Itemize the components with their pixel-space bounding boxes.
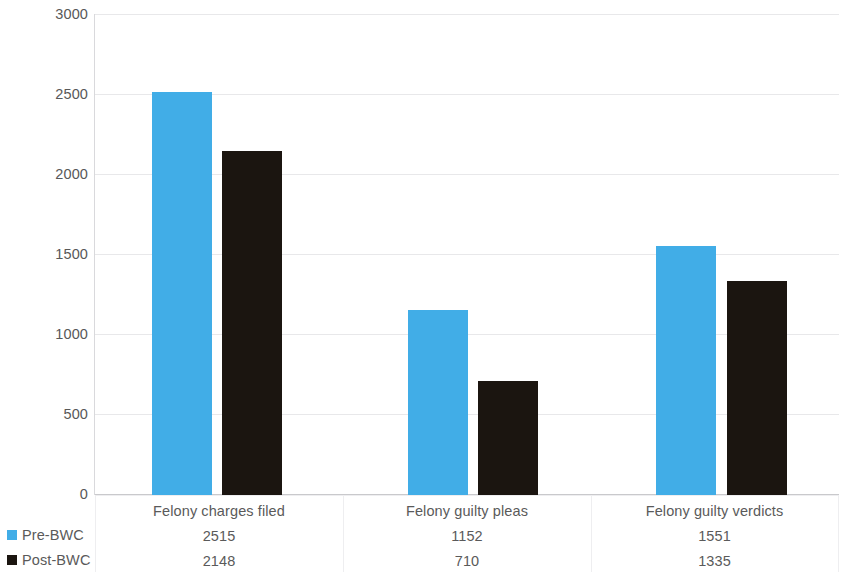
table-column-divider — [838, 495, 839, 572]
bar-pre-bwc-felony-guilty-pleas — [408, 310, 468, 495]
table-header-cell: Felony guilty verdicts — [591, 504, 838, 519]
bar-pre-bwc-felony-guilty-verdicts — [656, 246, 716, 495]
table-cell: 710 — [343, 554, 591, 569]
table-header-cell: Felony charges filed — [95, 504, 343, 519]
table-cell: 2515 — [95, 529, 343, 544]
y-tick-label: 2000 — [8, 167, 88, 182]
y-tick-label: 2500 — [8, 87, 88, 102]
bar-post-bwc-felony-guilty-verdicts — [727, 281, 787, 495]
y-tick-label: 1500 — [8, 247, 88, 262]
plot-area — [95, 14, 839, 495]
y-tick-label: 500 — [8, 407, 88, 422]
table-header-cell: Felony guilty pleas — [343, 504, 591, 519]
chart-screenshot: 3000 2500 2000 1500 1000 500 0 Pre-BWC — [0, 0, 847, 572]
bar-post-bwc-felony-charges-filed — [222, 151, 282, 495]
bar-post-bwc-felony-guilty-pleas — [478, 381, 538, 495]
table-cell: 1335 — [591, 554, 838, 569]
gridline — [95, 14, 839, 15]
y-axis: 3000 2500 2000 1500 1000 500 0 — [0, 0, 88, 572]
table-cell: 1152 — [343, 529, 591, 544]
table-cell: 1551 — [591, 529, 838, 544]
table-row-divider — [95, 495, 839, 496]
bar-pre-bwc-felony-charges-filed — [152, 92, 212, 495]
y-tick-label: 3000 — [8, 7, 88, 22]
data-table-grid: Felony charges filed Felony guilty pleas… — [95, 495, 839, 572]
table-cell: 2148 — [95, 554, 343, 569]
data-table: Felony charges filed Felony guilty pleas… — [0, 495, 847, 572]
y-tick-label: 1000 — [8, 327, 88, 342]
